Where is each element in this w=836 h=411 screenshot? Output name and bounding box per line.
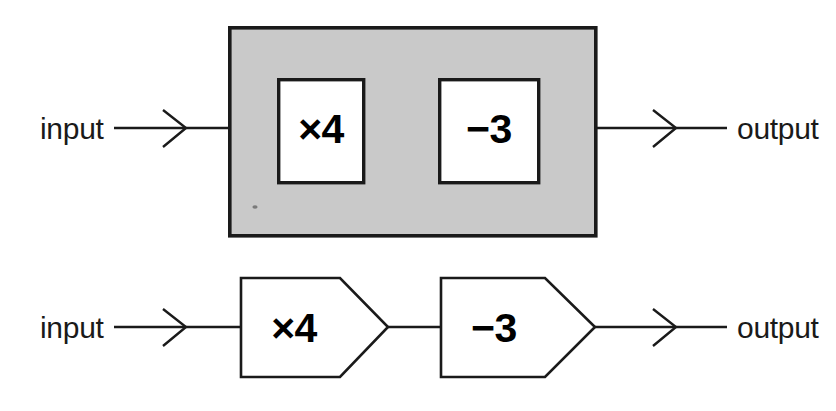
bottom-operation-pentagon-2: −3 [441,278,595,377]
bottom-output-label: output [737,311,820,344]
scan-speck [252,205,257,209]
bottom-output-arrow [594,309,727,346]
top-op2-label: −3 [466,106,512,152]
top-output-label: output [737,112,820,145]
bottom-input-label: input [40,311,105,344]
boxed-machine-diagram: input ×4 −3 [40,28,820,236]
bottom-operation-pentagon-1: ×4 [241,278,388,377]
bottom-op2-frame [441,278,595,377]
top-operation-box-1: ×4 [279,80,364,183]
bottom-op2-label: −3 [471,305,517,351]
diagram-canvas: input ×4 −3 [0,0,836,411]
top-input-arrow [114,110,229,147]
top-op1-label: ×4 [298,106,344,152]
top-input-label: input [40,112,105,145]
top-operation-box-2: −3 [440,80,539,183]
function-machine-diagram: input ×4 −3 [0,0,836,411]
chained-machine-diagram: input ×4 −3 o [40,278,820,377]
bottom-input-arrow [114,309,241,346]
bottom-op1-label: ×4 [271,305,317,351]
top-output-arrow [596,110,727,147]
